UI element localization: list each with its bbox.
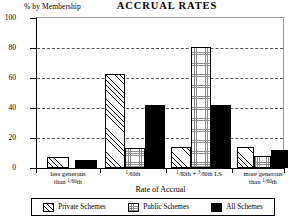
chart-legend: Private Schemes Public Schemes All Schem…	[31, 198, 275, 216]
cat2-denominator-1: 80	[180, 171, 185, 177]
bar-public-more-generous	[254, 156, 271, 168]
cat3-than: than	[249, 178, 260, 185]
cat2-fraction-1: 1/80	[176, 170, 186, 179]
cat3-line1: more generous	[244, 170, 283, 177]
cat2-denominator-2: 80	[202, 171, 207, 177]
cat2-suffix-2: th LS	[207, 170, 221, 177]
cat0-line2: than 1/60th	[54, 178, 82, 185]
legend-label-all: All Schemes	[226, 203, 263, 211]
x-category-label-more-generous: more generous than 1/60th	[226, 170, 300, 186]
cat0-denominator: 60	[72, 178, 77, 184]
cat1-suffix: th	[135, 170, 140, 177]
legend-label-public: Public Schemes	[143, 203, 189, 211]
bar-group-eightieth-ls	[171, 17, 231, 168]
cat3-line2: than 1/60th	[249, 178, 277, 185]
bar-private-less-generous	[47, 157, 69, 168]
y-tick-label-0: 0	[0, 164, 16, 172]
bar-group-more-generous	[237, 17, 285, 168]
bar-group-less-generous	[43, 17, 99, 168]
cat2-fraction-2: 3/80	[198, 170, 208, 179]
legend-swatch-public-icon	[128, 203, 139, 212]
cat1-denominator: 60	[130, 171, 135, 177]
cat0-numerator: 1	[67, 177, 70, 183]
cat0-suffix: th	[77, 178, 82, 185]
chart-title: ACCRUAL RATES	[0, 0, 306, 11]
y-tick-label-80: 80	[0, 44, 16, 52]
cat1-fraction: 1/60	[126, 170, 136, 179]
bar-private-more-generous	[237, 147, 254, 168]
legend-swatch-private-icon	[43, 203, 54, 212]
plot-area	[36, 17, 284, 168]
x-category-label-less-generous: less generous than 1/60th	[32, 170, 104, 186]
bar-public-one-sixtieth	[125, 148, 145, 168]
cat1-numerator: 1	[126, 169, 129, 175]
legend-swatch-all-icon	[211, 203, 222, 212]
bar-all-eightieth-ls	[211, 105, 231, 168]
cat3-numerator: 1	[262, 177, 265, 183]
bar-all-more-generous	[271, 150, 288, 168]
accrual-rates-chart: % by Membership ACCRUAL RATES 100 80 60 …	[0, 0, 306, 223]
legend-label-private: Private Schemes	[58, 203, 106, 211]
cat0-line1: less generous	[50, 170, 85, 177]
legend-item-private: Private Schemes	[43, 203, 106, 212]
y-tick-label-20: 20	[0, 134, 16, 142]
bar-private-eightieth-ls	[171, 147, 191, 168]
bar-private-one-sixtieth	[105, 74, 125, 168]
y-tick-label-60: 60	[0, 74, 16, 82]
cat3-suffix: th	[272, 178, 277, 185]
legend-item-public: Public Schemes	[128, 203, 189, 212]
bar-group-one-sixtieth	[105, 17, 165, 168]
cat0-than: than	[54, 178, 65, 185]
y-tick-label-40: 40	[0, 104, 16, 112]
x-axis-title: Rate of Accrual	[36, 185, 285, 194]
legend-item-all: All Schemes	[211, 203, 263, 212]
bar-public-eightieth-ls	[191, 47, 211, 168]
cat2-suffix-1: th +	[186, 170, 197, 177]
cat2-numerator-1: 1	[176, 169, 179, 175]
bar-all-less-generous	[75, 160, 97, 168]
cat3-denominator: 60	[267, 178, 272, 184]
bar-all-one-sixtieth	[145, 105, 165, 168]
y-tick-label-100: 100	[0, 14, 16, 22]
